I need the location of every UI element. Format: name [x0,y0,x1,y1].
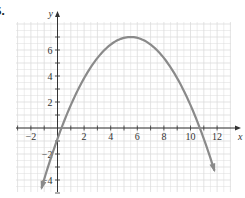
parabola-chart: −224681012−4−2246xy [0,0,245,198]
svg-text:x: x [237,131,243,142]
svg-text:6: 6 [135,131,140,142]
svg-text:6: 6 [48,45,53,56]
svg-text:12: 12 [212,131,222,142]
svg-text:4: 4 [108,131,113,142]
svg-text:2: 2 [48,97,53,108]
y-axis-arrow-icon [55,11,60,17]
svg-text:−2: −2 [26,131,37,142]
svg-text:4: 4 [48,71,53,82]
svg-text:8: 8 [161,131,166,142]
svg-text:y: y [48,8,54,19]
svg-text:10: 10 [186,131,196,142]
svg-text:2: 2 [82,131,87,142]
x-axis-arrow-icon [235,126,241,131]
